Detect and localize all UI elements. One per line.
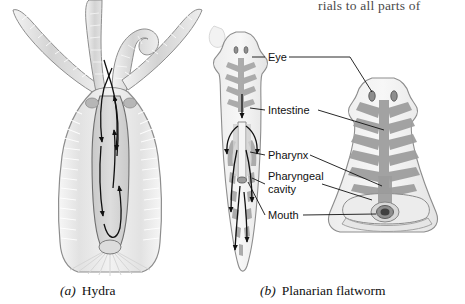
cut-off-body-text: rials to all parts of: [318, 0, 420, 14]
planarian-eyespot: [391, 91, 397, 101]
caption-text-a: Hydra: [82, 283, 116, 298]
pharyngeal-cavity-label: Pharyngeal cavity: [268, 170, 324, 195]
pharynx-label: Pharynx: [268, 149, 308, 162]
hydra-pore: [124, 98, 137, 108]
caption-letter-a: (a): [60, 283, 76, 298]
planarian-mouth: [238, 177, 247, 183]
caption-planarian: (b)Planarian flatworm: [260, 283, 386, 299]
planarian-eyespot: [369, 91, 375, 101]
caption-hydra: (a)Hydra: [60, 283, 116, 299]
planarian-mouth: [381, 209, 390, 216]
planarian-eyespot: [244, 47, 248, 54]
planarian-pharynx: [238, 122, 246, 182]
biology-figure: rials to all parts of Eye Intestine Phar…: [0, 0, 465, 304]
planarian-anterior-enlargement: [328, 78, 437, 232]
caption-letter-b: (b): [260, 283, 276, 298]
hydra-pore: [86, 98, 99, 108]
caption-text-b: Planarian flatworm: [282, 283, 386, 298]
hydra-icon: [13, 0, 202, 276]
planarian-eyespot: [234, 47, 238, 54]
figure-illustration: [0, 0, 465, 304]
mouth-label: Mouth: [268, 209, 299, 222]
planarian-icon: [209, 26, 267, 271]
hydra-gastrovascular-cavity: [92, 96, 129, 253]
hydra-tentacle: [13, 10, 98, 93]
intestine-label: Intestine: [268, 104, 310, 117]
eye-label: Eye: [268, 51, 287, 64]
